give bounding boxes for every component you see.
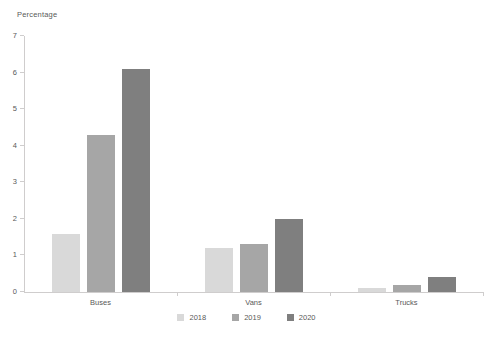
legend-swatch-2018 [177, 314, 184, 321]
legend-swatch-2019 [232, 314, 239, 321]
bar-chart: Percentage 01234567 BusesVansTrucks 2018… [0, 0, 493, 337]
x-tick-mark [330, 292, 331, 296]
y-tick-mark [20, 35, 24, 36]
category-label-vans: Vans [177, 298, 330, 307]
legend-swatch-2020 [287, 314, 294, 321]
y-tick-label: 1 [3, 250, 17, 260]
bar-2020-vans [275, 219, 303, 292]
y-tick-label: 5 [3, 104, 17, 114]
legend: 201820192020 [0, 313, 493, 322]
y-tick-mark [20, 181, 24, 182]
category-label-buses: Buses [24, 298, 177, 307]
bar-2019-buses [87, 135, 115, 292]
category-label-trucks: Trucks [330, 298, 483, 307]
bar-2018-trucks [358, 288, 386, 292]
bar-group-vans [178, 36, 331, 292]
y-tick-mark [20, 145, 24, 146]
y-tick-label: 7 [3, 31, 17, 41]
y-tick-mark [20, 108, 24, 109]
legend-item-2018: 2018 [177, 313, 206, 322]
legend-label-2018: 2018 [189, 313, 206, 322]
y-tick-label: 0 [3, 287, 17, 297]
bar-2018-buses [52, 234, 80, 293]
bar-2020-buses [122, 69, 150, 292]
plot-area: 01234567 [24, 36, 484, 293]
legend-item-2019: 2019 [232, 313, 261, 322]
y-tick-mark [20, 72, 24, 73]
y-tick-label: 4 [3, 141, 17, 151]
bar-groups [25, 36, 484, 292]
x-tick-mark [177, 292, 178, 296]
legend-label-2020: 2020 [299, 313, 316, 322]
legend-label-2019: 2019 [244, 313, 261, 322]
bar-2018-vans [205, 248, 233, 292]
bar-group-buses [25, 36, 178, 292]
y-tick-label: 2 [3, 214, 17, 224]
y-tick-mark [20, 254, 24, 255]
y-tick-mark [20, 218, 24, 219]
y-axis-title: Percentage [17, 10, 57, 19]
category-axis: BusesVansTrucks [24, 298, 483, 307]
x-tick-mark [483, 292, 484, 296]
bar-2020-trucks [428, 277, 456, 292]
y-tick-mark [20, 291, 24, 292]
bar-2019-trucks [393, 285, 421, 292]
bar-2019-vans [240, 244, 268, 292]
bar-group-trucks [331, 36, 484, 292]
y-tick-label: 6 [3, 68, 17, 78]
y-tick-label: 3 [3, 177, 17, 187]
legend-item-2020: 2020 [287, 313, 316, 322]
